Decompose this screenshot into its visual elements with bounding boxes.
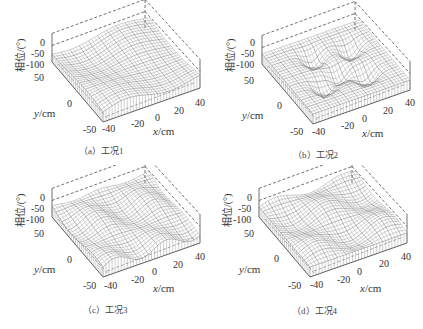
z-tick-minus100: -100 — [26, 60, 44, 70]
y-tick-50: 50 — [34, 73, 44, 83]
x-tick-minus20: -20 — [341, 121, 354, 131]
z-axis-label: 相位/(°) — [12, 194, 27, 227]
z-axis-label: 相位/(°) — [222, 39, 237, 72]
x-tick-minus20: -20 — [337, 275, 350, 285]
x-axis-label: x/cm — [362, 127, 383, 139]
y-tick-0: 0 — [277, 101, 282, 111]
y-tick-50: 50 — [34, 229, 44, 239]
surface-plot — [210, 165, 421, 315]
y-tick-minus50: -50 — [83, 125, 96, 135]
z-tick-minus50: -50 — [241, 49, 254, 59]
y-axis-label: y/cm — [239, 263, 260, 275]
x-tick-40: 40 — [195, 252, 205, 262]
x-tick-0: 0 — [362, 114, 367, 124]
x-tick-20: 20 — [379, 259, 389, 269]
panel-caption: （d）工况4 — [292, 304, 337, 317]
z-tick-0: 0 — [40, 193, 45, 203]
z-tick-0: 0 — [250, 38, 255, 48]
panel-caption: （a）工况1 — [79, 144, 124, 157]
y-axis-label: y/cm — [34, 107, 55, 119]
x-tick-20: 20 — [173, 260, 183, 270]
x-tick-minus20: -20 — [131, 275, 144, 285]
y-axis-label: y/cm — [34, 263, 55, 275]
y-tick-50: 50 — [244, 76, 254, 86]
y-axis-label: y/cm — [242, 109, 263, 121]
x-tick-40: 40 — [195, 98, 205, 108]
z-tick-0: 0 — [247, 193, 252, 203]
y-tick-minus50: -50 — [290, 127, 303, 137]
z-tick-minus50: -50 — [238, 204, 251, 214]
x-axis-label: x/cm — [360, 282, 381, 294]
z-tick-0: 0 — [40, 38, 45, 48]
y-tick-50: 50 — [244, 229, 254, 239]
x-tick-minus20: -20 — [131, 119, 144, 129]
y-tick-minus50: -50 — [83, 281, 96, 291]
y-tick-minus50: -50 — [288, 281, 301, 291]
panel-caption: （b）工况2 — [293, 148, 338, 161]
z-tick-minus100: -100 — [236, 60, 254, 70]
panel-b: 0 -50 -100 相位/(°) 50 0 -50 y/cm -40 -20 … — [210, 0, 421, 164]
x-axis-label: x/cm — [153, 125, 174, 137]
panel-c: 0 -50 -100 相位/(°) 50 0 -50 y/cm -40 -20 … — [0, 165, 211, 329]
z-axis-label: 相位/(°) — [219, 194, 234, 227]
z-axis-label: 相位/(°) — [12, 39, 27, 72]
x-tick-0: 0 — [152, 267, 157, 277]
z-tick-minus100: -100 — [233, 215, 251, 225]
x-tick-40: 40 — [401, 252, 411, 262]
z-tick-minus50: -50 — [31, 49, 44, 59]
y-tick-0: 0 — [67, 99, 72, 109]
x-tick-minus40: -40 — [312, 127, 325, 137]
x-tick-0: 0 — [357, 267, 362, 277]
x-tick-40: 40 — [405, 98, 415, 108]
panel-a: 0 -50 -100 相位/(°) 50 0 -50 y/cm -40 -20 … — [0, 0, 211, 164]
x-tick-minus40: -40 — [310, 280, 323, 290]
panel-caption: （c）工况3 — [83, 303, 128, 316]
x-tick-minus40: -40 — [102, 124, 115, 134]
y-tick-0: 0 — [67, 255, 72, 265]
z-tick-minus100: -100 — [26, 215, 44, 225]
surface-plot — [0, 165, 211, 315]
y-tick-0: 0 — [274, 254, 279, 264]
panel-d: 0 -50 -100 相位/(°) 50 0 -50 y/cm -40 -20 … — [210, 165, 421, 329]
x-axis-label: x/cm — [153, 282, 174, 294]
z-tick-minus50: -50 — [31, 204, 44, 214]
x-tick-20: 20 — [174, 106, 184, 116]
x-tick-0: 0 — [155, 113, 160, 123]
x-tick-20: 20 — [383, 106, 393, 116]
x-tick-minus40: -40 — [104, 281, 117, 291]
